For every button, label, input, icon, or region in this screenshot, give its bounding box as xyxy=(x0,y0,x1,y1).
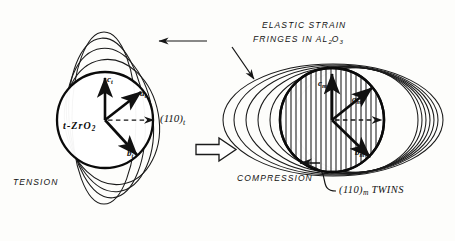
alumina-oxygen: O xyxy=(332,34,340,44)
vector-c-t-sub: t xyxy=(111,78,113,85)
elastic-strain-leader-right xyxy=(232,47,254,79)
tetragonal-phase-label: t-ZrO2 xyxy=(63,120,95,133)
left-figure-group xyxy=(55,32,169,204)
twins-plane-text: (110) xyxy=(339,184,363,195)
vector-label-c-m: cm xyxy=(318,78,327,89)
vector-b-m-sub: m xyxy=(360,151,365,158)
transformation-arrow xyxy=(196,138,236,161)
figure-canvas: ELASTIC STRAIN FRINGES IN AL2O3 TENSION … xyxy=(0,0,455,241)
plane-text: (110) xyxy=(160,112,183,124)
compression-label: COMPRESSION xyxy=(237,173,313,183)
phase-sub: 2 xyxy=(92,125,96,133)
vector-label-a-m: am xyxy=(352,94,361,105)
right-figure-group xyxy=(223,64,443,176)
elastic-strain-label-line1: ELASTIC STRAIN xyxy=(262,20,346,30)
elastic-strain-label-line2: FRINGES IN AL2O3 xyxy=(253,34,343,45)
twins-word-text: TWINS xyxy=(371,184,403,195)
vector-label-a-t: at xyxy=(140,88,146,99)
plane-110-t-label: (110)t xyxy=(160,112,185,127)
elastic-fringes-text: FRINGES IN AL xyxy=(253,34,328,44)
tension-label: TENSION xyxy=(13,177,58,187)
vector-label-b-t: bt xyxy=(127,148,133,159)
vector-a-m-sub: m xyxy=(357,98,362,105)
plane-sub-t: t xyxy=(183,118,185,127)
alumina-sub-3: 3 xyxy=(340,38,343,45)
vector-c-m-sub: m xyxy=(322,82,327,89)
vector-a-t-sub: t xyxy=(145,92,147,99)
vector-label-c-t: ct xyxy=(107,74,113,85)
vector-label-b-m: bm xyxy=(355,147,364,158)
phase-text: t-ZrO xyxy=(63,120,92,131)
vector-b-t-sub: t xyxy=(132,152,134,159)
twins-110-m-label: (110)m TWINS xyxy=(339,184,404,197)
